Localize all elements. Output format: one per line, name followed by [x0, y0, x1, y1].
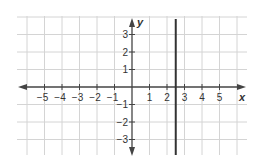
y-tick-label: 2: [122, 47, 128, 58]
x-tick-label: −5: [37, 92, 49, 103]
y-tick-label: 1: [122, 64, 128, 75]
x-tick-label: −3: [72, 92, 84, 103]
x-axis-label: x: [238, 91, 246, 103]
y-axis-up-arrow-icon: [129, 18, 135, 27]
x-axis-left-arrow-icon: [18, 84, 27, 90]
x-tick-label: 1: [147, 92, 153, 103]
y-tick-label: −2: [117, 117, 129, 128]
y-axis-label: y: [136, 16, 144, 28]
y-tick-label: −1: [117, 99, 129, 110]
x-tick-label: −4: [54, 92, 66, 103]
x-tick-label: −2: [89, 92, 101, 103]
x-tick-label: 3: [182, 92, 188, 103]
y-axis-down-arrow-icon: [129, 147, 135, 156]
x-axis-right-arrow-icon: [237, 84, 246, 90]
axes: [18, 18, 246, 156]
x-tick-label: 4: [199, 92, 205, 103]
y-tick-label: −3: [117, 134, 129, 145]
x-tick-label: 2: [164, 92, 170, 103]
y-tick-label: 3: [122, 29, 128, 40]
coordinate-plane: −5−4−3−2−112345−3−2−1123xy: [0, 0, 255, 157]
x-tick-label: 5: [217, 92, 223, 103]
tick-labels: −5−4−3−2−112345−3−2−1123xy: [37, 16, 246, 145]
